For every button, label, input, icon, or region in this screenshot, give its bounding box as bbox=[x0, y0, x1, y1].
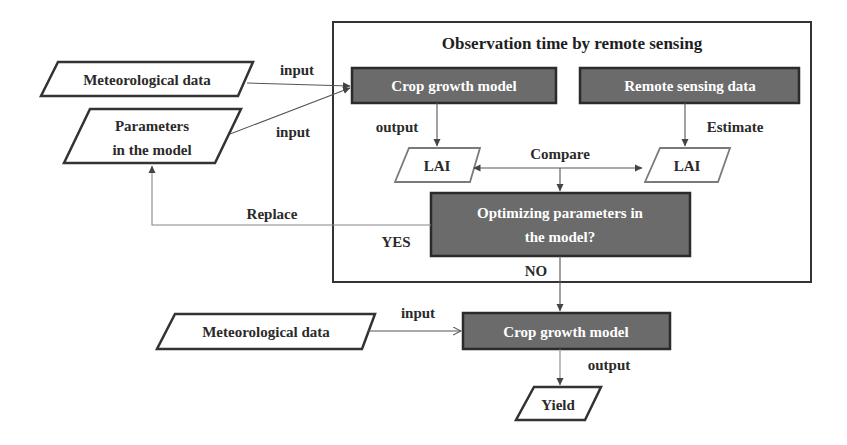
meteorological-data-input-bottom: Meteorological data bbox=[157, 314, 375, 349]
optimizing-decision-box: Optimizing parameters in the model? bbox=[431, 193, 690, 256]
lai-right-label: LAI bbox=[674, 158, 701, 174]
input-label-params: input bbox=[276, 124, 310, 140]
yield-output: Yield bbox=[516, 387, 601, 420]
parameters-label-line2: in the model bbox=[112, 142, 191, 158]
meteorological-data-label: Meteorological data bbox=[83, 72, 211, 88]
estimate-label: Estimate bbox=[707, 119, 764, 135]
optimizing-label-line1: Optimizing parameters in bbox=[477, 205, 643, 221]
remote-sensing-label: Remote sensing data bbox=[624, 78, 756, 94]
lai-estimated: LAI bbox=[645, 148, 730, 182]
crop-growth-model-bottom: Crop growth model bbox=[463, 313, 670, 349]
flowchart-diagram: Observation time by remote sensing Meteo… bbox=[0, 0, 847, 445]
crop-model-top-label: Crop growth model bbox=[391, 78, 516, 94]
parameters-input: Parameters in the model bbox=[64, 109, 241, 163]
remote-sensing-data-box: Remote sensing data bbox=[580, 68, 799, 103]
output-label-top: output bbox=[376, 119, 419, 135]
output-label-bottom: output bbox=[588, 357, 631, 373]
yes-label: YES bbox=[381, 234, 410, 250]
compare-label: Compare bbox=[530, 146, 590, 162]
parameters-label-line1: Parameters bbox=[115, 118, 189, 134]
optimizing-label-line2: the model? bbox=[525, 229, 595, 245]
input-label-met-top: input bbox=[280, 62, 314, 78]
meteorological-data-bottom-label: Meteorological data bbox=[202, 324, 330, 340]
meteorological-data-input-top: Meteorological data bbox=[41, 62, 253, 96]
crop-growth-model-top: Crop growth model bbox=[352, 68, 556, 103]
arrow-met-to-crop bbox=[247, 83, 350, 86]
crop-model-bottom-label: Crop growth model bbox=[503, 324, 628, 340]
yield-label: Yield bbox=[541, 397, 575, 413]
lai-left-label: LAI bbox=[424, 158, 451, 174]
no-label: NO bbox=[525, 263, 548, 279]
replace-label: Replace bbox=[247, 206, 298, 222]
frame-title: Observation time by remote sensing bbox=[442, 34, 703, 53]
lai-simulated: LAI bbox=[395, 148, 480, 182]
input-label-met-bottom: input bbox=[401, 305, 435, 321]
